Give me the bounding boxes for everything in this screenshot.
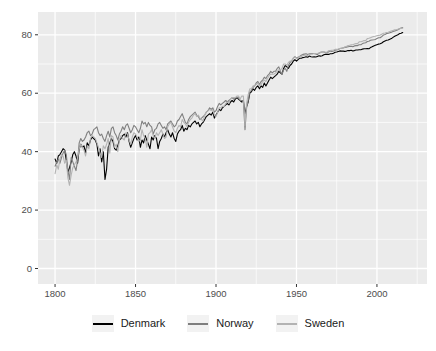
legend-item-sweden: Sweden <box>276 315 345 332</box>
legend-item-norway: Norway <box>187 315 253 332</box>
legend-label-denmark: Denmark <box>121 318 166 329</box>
y-tick-label: 0 <box>27 263 32 274</box>
legend-key-sweden <box>276 315 298 332</box>
legend-line-sweden <box>277 323 297 325</box>
y-tick-label: 20 <box>21 204 32 215</box>
legend-line-norway <box>188 323 208 325</box>
x-tick-label: 2000 <box>366 288 387 299</box>
legend-label-sweden: Sweden <box>305 318 345 329</box>
panel-background <box>38 12 427 284</box>
x-tick-label: 1900 <box>205 288 226 299</box>
y-tick-label: 80 <box>21 29 32 40</box>
legend: Denmark Norway Sweden <box>0 315 436 332</box>
legend-key-denmark <box>92 315 114 332</box>
legend-key-norway <box>187 315 209 332</box>
line-chart-figure: 020406080 18001850190019502000 Denmark N… <box>0 0 436 351</box>
chart-svg: 020406080 18001850190019502000 <box>0 0 436 302</box>
x-tick-label: 1800 <box>44 288 65 299</box>
y-tick-label: 40 <box>21 146 32 157</box>
legend-item-denmark: Denmark <box>92 315 166 332</box>
legend-line-denmark <box>93 323 113 325</box>
y-axis-labels: 020406080 <box>21 29 32 274</box>
y-tick-label: 60 <box>21 87 32 98</box>
x-axis-labels: 18001850190019502000 <box>44 288 387 299</box>
x-tick-label: 1950 <box>286 288 307 299</box>
legend-label-norway: Norway <box>216 318 253 329</box>
x-tick-label: 1850 <box>125 288 146 299</box>
